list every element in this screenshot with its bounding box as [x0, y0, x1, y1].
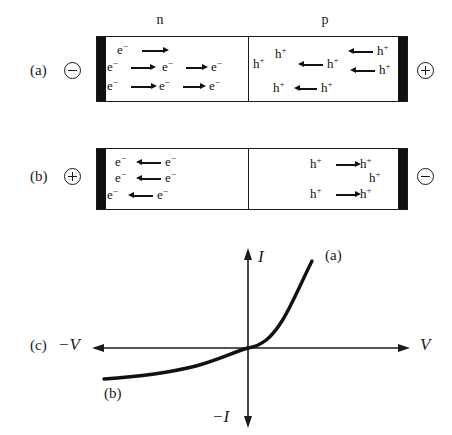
arrow-left-icon [355, 70, 375, 72]
region-label-p: p [295, 12, 355, 28]
arrow-right-icon [142, 50, 164, 52]
arrow-right-icon [336, 164, 356, 166]
carrier-electron: e− [107, 60, 118, 73]
panel-a-left-polarity-minus-icon [64, 62, 81, 79]
panel-a-tag: (a) [30, 62, 47, 79]
panel-b-right-electrode [398, 149, 407, 209]
panel-b-left-electrode [97, 149, 106, 209]
iv-graph-svg [0, 225, 452, 435]
panel-a-left-electrode [97, 37, 106, 101]
iv-characteristic-graph: (c) −V V I −I (a) (b) [0, 225, 452, 435]
arrow-right-icon [186, 67, 203, 69]
panel-c-tag: (c) [30, 337, 47, 354]
arrow-right-icon [336, 194, 356, 196]
reverse-bias-curve [104, 348, 248, 379]
carrier-electron: e− [211, 60, 222, 73]
arrow-left-icon [353, 51, 373, 53]
carrier-hole: h+ [273, 81, 285, 94]
carrier-hole: h+ [327, 57, 339, 70]
carrier-hole: h+ [310, 187, 322, 200]
arrow-right-icon [131, 86, 152, 88]
carrier-hole: h+ [321, 81, 333, 94]
carrier-electron: e− [165, 171, 176, 184]
curve-label-reverse: (b) [104, 385, 122, 402]
panel-b-left-polarity-plus-icon [64, 168, 81, 185]
carrier-electron: e− [157, 188, 168, 201]
carrier-electron: e− [209, 79, 220, 92]
carrier-hole: h+ [310, 157, 322, 170]
carrier-electron: e− [115, 171, 126, 184]
arrow-right-icon [131, 67, 151, 69]
arrow-left-icon [133, 195, 153, 197]
carrier-hole: h+ [369, 171, 381, 184]
curve-label-forward: (a) [325, 247, 342, 264]
positive-voltage-arrowhead-icon [398, 344, 410, 352]
panel-a-junction-line [248, 37, 249, 101]
axis-label-negative-voltage: −V [58, 335, 80, 355]
panel-a-right-electrode [398, 37, 407, 101]
panel-b-junction-line [248, 149, 249, 209]
carrier-electron: e− [107, 188, 118, 201]
forward-bias-curve [248, 261, 312, 348]
carrier-hole: h+ [253, 57, 265, 70]
carrier-electron: e− [159, 79, 170, 92]
carrier-hole: h+ [379, 63, 391, 76]
arrow-left-icon [299, 88, 317, 90]
axis-label-current: I [258, 247, 264, 267]
carrier-electron: e− [107, 79, 118, 92]
carrier-hole: h+ [275, 47, 287, 60]
negative-voltage-arrowhead-icon [92, 344, 104, 352]
arrow-left-icon [303, 64, 323, 66]
panel-a-right-polarity-plus-icon [417, 62, 434, 79]
panel-b-diode-bar: e− e− e− e− e− e− h+ h+ h+ h+ h+ [96, 148, 408, 210]
arrow-left-icon [141, 178, 161, 180]
carrier-electron: e− [115, 155, 126, 168]
arrow-left-icon [141, 162, 161, 164]
panel-a-diode-bar: e− e− e− e− e− e− e− h+ h+ h+ h+ h+ h+ h… [96, 36, 408, 102]
figure-root: (a) n p e− e− e− e− e− e− e− h+ h+ h+ h+… [0, 0, 452, 435]
axis-label-negative-current: −I [212, 407, 229, 427]
axis-label-voltage: V [420, 335, 430, 355]
region-label-n: n [130, 12, 190, 28]
panel-b-tag: (b) [30, 168, 48, 185]
carrier-hole: h+ [377, 44, 389, 57]
carrier-electron: e− [162, 60, 173, 73]
carrier-electron: e− [117, 43, 128, 56]
carrier-electron: e− [165, 155, 176, 168]
carrier-hole: h+ [360, 157, 372, 170]
carrier-hole: h+ [360, 187, 372, 200]
arrow-right-icon [183, 86, 201, 88]
positive-current-arrowhead-icon [244, 248, 252, 260]
negative-current-arrowhead-icon [244, 416, 252, 428]
panel-b-right-polarity-minus-icon [417, 168, 434, 185]
